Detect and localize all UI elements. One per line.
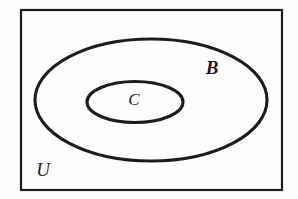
set-b-ellipse [35, 39, 267, 161]
universal-set-label: U [36, 159, 51, 180]
diagram-canvas: U B C [0, 0, 298, 199]
universal-set-rectangle [21, 10, 282, 190]
venn-diagram: U B C [0, 0, 298, 199]
set-b-label: B [205, 57, 219, 78]
set-c-label: C [128, 90, 140, 109]
